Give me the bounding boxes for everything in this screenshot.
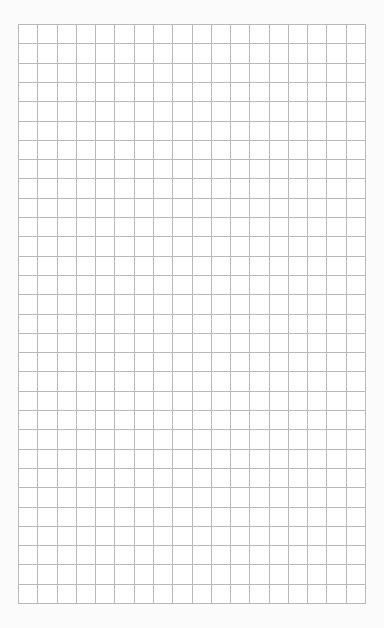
- grid-area: [18, 24, 366, 604]
- graph-paper-page: [0, 0, 384, 628]
- grid-lines: [18, 24, 365, 603]
